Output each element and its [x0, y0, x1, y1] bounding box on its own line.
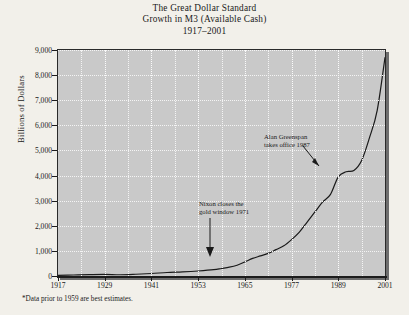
y-axis-tick-label: 1,000	[18, 247, 52, 256]
chart-container: The Great Dollar Standard Growth in M3 (…	[0, 0, 409, 315]
y-axis-tick-label: 3,000	[18, 197, 52, 206]
y-axis-tick-mark	[52, 125, 57, 126]
y-axis-tick-mark	[52, 201, 57, 202]
gridline-vertical	[198, 50, 199, 276]
y-axis-tick-mark	[52, 75, 57, 76]
x-axis-tick-mark	[292, 277, 293, 281]
x-axis-tick-label: 1989	[331, 281, 346, 290]
y-axis-tick-mark	[52, 50, 57, 51]
gridline-vertical	[105, 50, 106, 276]
gridline-vertical	[245, 50, 246, 276]
x-axis-tick-label: 1977	[284, 281, 299, 290]
y-axis-tick-label: 9,000	[18, 46, 52, 55]
y-axis-tick-mark	[52, 100, 57, 101]
gridline-vertical	[338, 50, 339, 276]
x-axis-tick-mark	[198, 277, 199, 281]
y-axis-tick-mark	[52, 150, 57, 151]
x-axis-tick-label: 1953	[191, 281, 206, 290]
annotation-greenspan-line-2: takes office 1987	[264, 141, 310, 149]
title-line-1: The Great Dollar Standard	[0, 3, 409, 14]
y-axis-tick-mark	[52, 226, 57, 227]
y-axis-tick-mark	[52, 251, 57, 252]
y-axis-tick-mark	[52, 176, 57, 177]
x-axis-tick-mark	[151, 277, 152, 281]
gridline-vertical	[315, 50, 316, 276]
gridline-vertical	[128, 50, 129, 276]
x-axis-tick-label: 1941	[144, 281, 159, 290]
x-axis-tick-mark	[385, 277, 386, 281]
title-line-3: 1917–2001	[0, 26, 409, 37]
y-axis-tick-label: 4,000	[18, 172, 52, 181]
gridline-vertical	[81, 50, 82, 276]
gridline-vertical	[292, 50, 293, 276]
title-line-2: Growth in M3 (Available Cash)	[0, 14, 409, 25]
annotation-nixon-line-1: Nixon closes the	[199, 200, 249, 208]
y-axis-tick-label: 2,000	[18, 222, 52, 231]
x-axis-tick-mark	[338, 277, 339, 281]
gridline-vertical	[362, 50, 363, 276]
x-axis-tick-mark	[58, 277, 59, 281]
annotation-nixon-line-2: gold window 1971	[199, 208, 249, 216]
x-axis-tick-label: 1929	[97, 281, 112, 290]
x-axis-tick-label: 2001	[377, 281, 392, 290]
gridline-vertical	[222, 50, 223, 276]
chart-footnote: *Data prior to 1959 are best estimates.	[22, 295, 133, 303]
gridline-vertical	[151, 50, 152, 276]
gridline-vertical	[268, 50, 269, 276]
y-axis-tick-label: 8,000	[18, 71, 52, 80]
y-axis-tick-label: 5,000	[18, 146, 52, 155]
chart-title: The Great Dollar Standard Growth in M3 (…	[0, 3, 409, 37]
y-axis-tick-label: 6,000	[18, 121, 52, 130]
y-axis-tick-label: 0	[18, 272, 52, 281]
x-axis-tick-mark	[245, 277, 246, 281]
annotation-greenspan: Alan Greenspan takes office 1987	[264, 133, 310, 149]
y-axis-tick-mark	[52, 276, 57, 277]
x-axis-tick-mark	[105, 277, 106, 281]
y-axis-tick-label: 7,000	[18, 96, 52, 105]
annotation-nixon: Nixon closes the gold window 1971	[199, 200, 249, 216]
annotation-greenspan-line-1: Alan Greenspan	[264, 133, 310, 141]
gridline-vertical	[175, 50, 176, 276]
x-axis-tick-label: 1917	[50, 281, 65, 290]
x-axis-tick-label: 1965	[237, 281, 252, 290]
plot-area	[57, 49, 386, 277]
